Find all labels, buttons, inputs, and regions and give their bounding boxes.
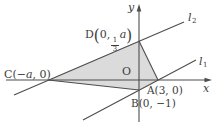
fraction-denominator: 3 xyxy=(113,46,117,54)
line-l1-label-base: l xyxy=(199,55,203,68)
line-l2-label-sub: 2 xyxy=(192,17,196,25)
line-l1-label-sub: 1 xyxy=(203,61,207,69)
point-D-label: D(0,13a) xyxy=(85,28,132,53)
y-axis-arrow-icon xyxy=(137,4,142,12)
x-axis-label: x xyxy=(203,83,209,94)
point-C-post: , 0) xyxy=(33,68,51,81)
point-C-pre: C(− xyxy=(4,68,26,81)
point-B-label: B(0, −1) xyxy=(131,98,176,109)
point-C-label: C(−a, 0) xyxy=(4,69,51,80)
coordinate-plane-diagram: y x O l2 l1 D(0,13a) C(−a, 0) A(3, 0) B(… xyxy=(0,0,215,124)
line-l1-label: l1 xyxy=(199,56,208,69)
point-D-open-paren: ( xyxy=(94,27,100,44)
origin-label: O xyxy=(122,66,131,77)
point-A-label: A(3, 0) xyxy=(147,85,183,96)
point-D-close-paren: ) xyxy=(126,27,132,44)
line-l2-label-base: l xyxy=(188,11,192,24)
line-l2-label: l2 xyxy=(188,12,197,25)
diagram-canvas xyxy=(0,0,215,124)
point-D-fraction: 13 xyxy=(111,37,118,53)
point-D-name: D xyxy=(85,28,94,41)
y-axis-label: y xyxy=(128,2,134,13)
point-D-coords-pre: 0, xyxy=(100,28,111,41)
